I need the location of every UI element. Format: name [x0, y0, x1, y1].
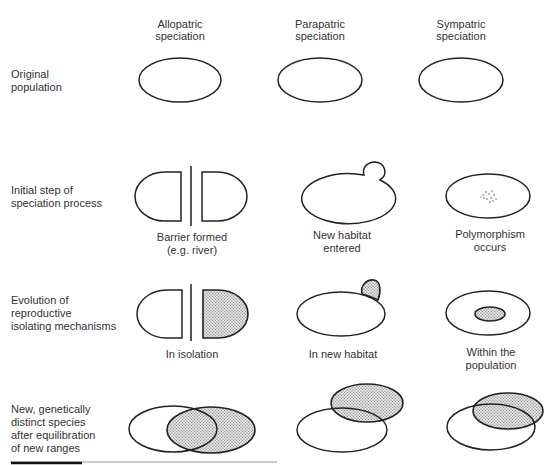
row-label-line: Initial step of — [11, 184, 74, 196]
population-ellipse-sympatric-original — [419, 58, 503, 102]
row-label-line: distinct species — [11, 416, 86, 428]
sympatric-initial — [446, 174, 530, 218]
column-header-parapatric: Parapatric speciation — [295, 18, 346, 42]
new-species-range — [331, 384, 403, 422]
column-header-line: Parapatric — [295, 18, 346, 30]
row-label-new-species: New, genetically distinct species after … — [11, 403, 95, 454]
column-header-allopatric: Allopatric speciation — [155, 18, 205, 42]
sympatric-new-species — [447, 393, 543, 450]
column-header-line: speciation — [295, 30, 345, 42]
caption-new-habitat: New habitat — [313, 229, 371, 241]
column-header-line: speciation — [155, 30, 205, 42]
caption-in-isolation: In isolation — [166, 348, 219, 360]
population-ellipse-parapatric-original — [278, 58, 362, 102]
population-ellipse-allopatric-original — [139, 58, 221, 102]
caption-barrier-example: (e.g. river) — [167, 244, 217, 256]
caption-entered: entered — [323, 242, 360, 254]
column-header-line: Sympatric — [437, 18, 486, 30]
polymorphism-dots — [480, 190, 496, 202]
left-population-half — [135, 172, 181, 221]
row-label-line: Original — [11, 68, 49, 80]
row-label-original: Original population — [11, 68, 62, 93]
row-label-initial: Initial step of speciation process — [11, 184, 103, 209]
caption-occurs: occurs — [474, 241, 507, 253]
row-label-line: speciation process — [11, 197, 103, 209]
speciation-diagram: Allopatric speciation Parapatric speciat… — [0, 0, 557, 465]
row-label-line: New, genetically — [11, 403, 91, 415]
parapatric-new-species — [297, 384, 403, 452]
new-species-range — [167, 407, 255, 453]
row-label-line: reproductive — [11, 307, 72, 319]
row-label-line: isolating mechanisms — [11, 320, 117, 332]
parapatric-initial — [302, 162, 396, 224]
caption-population: population — [466, 359, 517, 371]
column-header-sympatric: Sympatric speciation — [436, 18, 486, 42]
sympatric-evolution — [446, 291, 530, 335]
column-header-line: Allopatric — [157, 18, 203, 30]
population-with-new-habitat-bump — [302, 162, 396, 224]
right-population-half-diverged — [203, 290, 248, 338]
row-label-line: Evolution of — [11, 294, 69, 306]
right-population-half — [202, 172, 247, 221]
allopatric-split-initial — [135, 166, 247, 226]
allopatric-split-evolution — [137, 284, 248, 341]
caption-in-new-habitat: In new habitat — [309, 348, 378, 360]
caption-within-the: Within the — [467, 346, 516, 358]
row-label-line: after equilibration — [11, 429, 95, 441]
new-species-range — [473, 393, 543, 429]
column-header-line: speciation — [436, 30, 486, 42]
allopatric-new-species — [129, 406, 255, 453]
caption-barrier-formed: Barrier formed — [157, 231, 227, 243]
diverged-subpopulation — [475, 307, 505, 321]
population-ellipse — [446, 174, 530, 218]
parapatric-evolution — [297, 280, 385, 336]
population-ellipse — [297, 292, 385, 336]
row-label-evolution: Evolution of reproductive isolating mech… — [11, 294, 117, 332]
row-label-line: population — [11, 81, 62, 93]
left-population-half — [137, 290, 182, 338]
new-habitat-diverged-bump — [362, 280, 380, 300]
caption-polymorphism: Polymorphism — [455, 228, 525, 240]
row-label-line: of new ranges — [11, 442, 81, 454]
